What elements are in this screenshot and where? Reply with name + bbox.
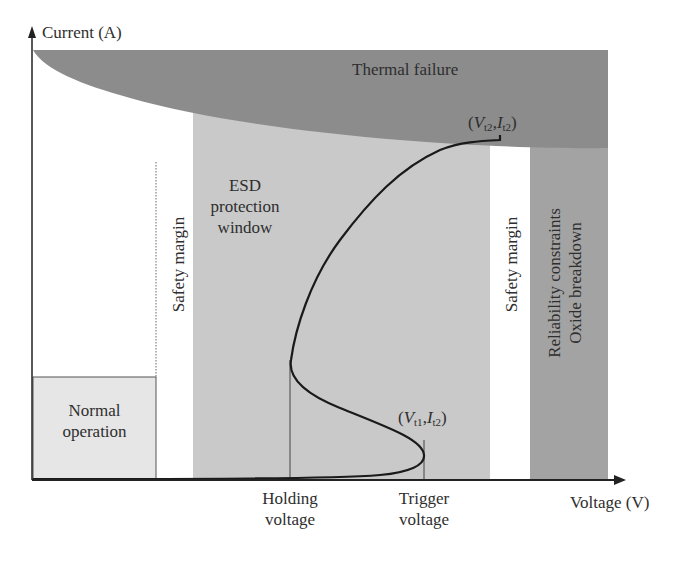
- holding-voltage-line-2: voltage: [250, 509, 330, 530]
- normal-operation-label: Normal operation: [33, 400, 156, 442]
- x-axis-arrow-icon: [614, 475, 626, 485]
- y-axis-label: Current (A): [42, 22, 122, 43]
- reliability-line-2: Oxide breakdown: [565, 198, 586, 368]
- trigger-voltage-label: Trigger voltage: [384, 488, 464, 530]
- esd-window-line-2: protection: [205, 196, 285, 217]
- normal-operation-line-1: Normal: [33, 400, 156, 421]
- thermal-failure-label: Thermal failure: [352, 59, 458, 80]
- holding-voltage-line-1: Holding: [250, 488, 330, 509]
- x-axis-label: Voltage (V): [570, 492, 649, 513]
- trigger-voltage-line-1: Trigger: [384, 488, 464, 509]
- reliability-line-1: Reliability constraints: [544, 198, 565, 368]
- esd-window-line-1: ESD: [205, 175, 285, 196]
- trigger-voltage-line-2: voltage: [384, 509, 464, 530]
- point-vt1-it2-label: (Vt1,It2): [398, 407, 447, 433]
- holding-voltage-label: Holding voltage: [250, 488, 330, 530]
- y-axis-arrow-icon: [28, 26, 36, 38]
- esd-window-line-3: window: [205, 217, 285, 238]
- esd-design-window-diagram: [0, 0, 700, 566]
- reliability-label: Reliability constraints Oxide breakdown: [544, 198, 590, 368]
- point-vt2-it2-label: (Vt2,It2): [468, 112, 517, 138]
- esd-window-label: ESD protection window: [205, 175, 285, 238]
- safety-margin-left-label: Safety margin: [168, 210, 189, 320]
- normal-operation-line-2: operation: [33, 421, 156, 442]
- safety-margin-right-label: Safety margin: [501, 210, 522, 320]
